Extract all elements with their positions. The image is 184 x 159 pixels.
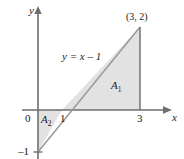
shaded-region-a1 xyxy=(62,27,140,110)
equation-label: y = x – 1 xyxy=(62,51,101,62)
y-axis-arrow-icon xyxy=(34,6,41,14)
region-label-a2: A2 xyxy=(41,114,51,128)
region-label-a1: A1 xyxy=(111,80,121,94)
x-tick-label-3: 3 xyxy=(137,113,143,124)
x-axis-label: x xyxy=(172,112,177,123)
region-a2-base: A xyxy=(41,113,48,125)
figure-coordinate-plane: y x 0 1 3 –1 (3, 2) y = x – 1 A1 A2 xyxy=(0,0,184,159)
region-a2-subscript: 2 xyxy=(48,119,52,128)
x-tick-label-1: 1 xyxy=(60,113,66,124)
origin-label: 0 xyxy=(25,113,31,124)
point-label-3-2: (3, 2) xyxy=(126,12,148,22)
y-axis-label: y xyxy=(29,5,34,16)
figure-canvas xyxy=(0,0,184,159)
region-a1-subscript: 1 xyxy=(118,85,122,94)
y-tick-label-neg1: –1 xyxy=(18,146,29,157)
x-axis-arrow-icon xyxy=(163,106,172,114)
region-a1-base: A xyxy=(111,79,118,91)
